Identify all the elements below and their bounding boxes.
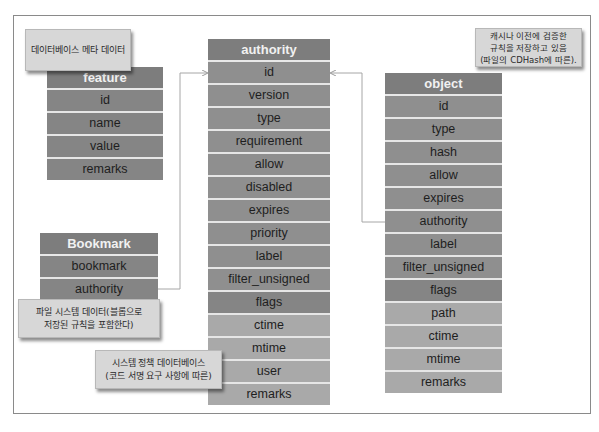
- table-object: object id type hash allow expires author…: [385, 73, 502, 393]
- field-row: id: [385, 96, 502, 119]
- callout-filesystem-data: 파일 시스템 데이터(블롭으로 저장된 규칙을 포함한다): [18, 299, 160, 338]
- table-header: object: [385, 73, 502, 96]
- callout-system-policy: 시스템 정책 데이터베이스 (코드 서명 요구 사항에 따른): [95, 350, 222, 389]
- field-row: type: [208, 108, 330, 131]
- connector-bookmark-authority: [158, 73, 207, 289]
- field-row: remarks: [47, 159, 163, 180]
- field-row: authority: [385, 211, 502, 234]
- field-row: expires: [208, 200, 330, 223]
- field-row: bookmark: [40, 256, 158, 279]
- table-header: Bookmark: [40, 233, 158, 256]
- field-row: id: [208, 62, 330, 85]
- field-row: label: [385, 234, 502, 257]
- field-row: filter_unsigned: [385, 257, 502, 280]
- field-row: allow: [208, 154, 330, 177]
- connector-object-authority: [331, 73, 385, 222]
- callout-line: (파일의 CDHash에 따른).: [476, 54, 581, 66]
- field-row: version: [208, 85, 330, 108]
- field-row: remarks: [385, 372, 502, 393]
- table-authority: authority id version type requirement al…: [208, 39, 330, 405]
- table-header: authority: [208, 39, 330, 62]
- field-row: expires: [385, 188, 502, 211]
- field-row: type: [385, 119, 502, 142]
- field-row: ctime: [208, 315, 330, 338]
- field-row: remarks: [208, 384, 330, 405]
- field-row: disabled: [208, 177, 330, 200]
- field-row: user: [208, 361, 330, 384]
- table-bookmark: Bookmark bookmark authority: [40, 233, 158, 300]
- field-row: label: [208, 246, 330, 269]
- field-row: authority: [40, 279, 158, 300]
- table-feature: feature id name value remarks: [47, 67, 163, 180]
- field-row: mtime: [385, 349, 502, 372]
- field-row: flags: [385, 280, 502, 303]
- field-row: mtime: [208, 338, 330, 361]
- callout-text: 데이터베이스 메타 데이터: [26, 44, 130, 57]
- field-row: filter_unsigned: [208, 269, 330, 292]
- field-row: value: [47, 136, 163, 159]
- callout-line: (코드 서명 요구 사항에 따른): [96, 370, 221, 383]
- field-row: hash: [385, 142, 502, 165]
- field-row: path: [385, 303, 502, 326]
- callout-line: 규칙을 저장하고 있음: [476, 42, 581, 54]
- field-row: ctime: [385, 326, 502, 349]
- field-row: requirement: [208, 131, 330, 154]
- callout-line: 시스템 정책 데이터베이스: [96, 357, 221, 370]
- field-row: name: [47, 113, 163, 136]
- field-row: priority: [208, 223, 330, 246]
- field-row: id: [47, 90, 163, 113]
- field-row: allow: [385, 165, 502, 188]
- callout-line: 파일 시스템 데이터(블롭으로: [19, 306, 159, 319]
- callout-line: 저장된 규칙을 포함한다): [19, 319, 159, 332]
- callout-database-metadata: 데이터베이스 메타 데이터: [25, 29, 131, 71]
- field-row: flags: [208, 292, 330, 315]
- callout-object-cache: 캐시나 이전에 검증한 규칙을 저장하고 있음 (파일의 CDHash에 따른)…: [475, 28, 582, 67]
- callout-line: 캐시나 이전에 검증한: [476, 30, 581, 42]
